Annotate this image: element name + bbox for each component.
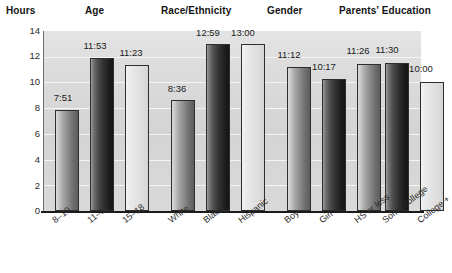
y-tick-4: 4 (4, 155, 40, 165)
y-tick-12: 12 (4, 51, 40, 61)
bar-value-white: 8:36 (155, 84, 199, 94)
group-header-parents-education: Parents' Education (339, 5, 431, 16)
bar-value-8-10: 7:51 (43, 93, 83, 103)
y-axis: 14 12 10 8 6 4 2 0 (0, 0, 40, 273)
bar-8-10[interactable] (55, 110, 79, 211)
bar-value-some-college: 11:30 (364, 45, 410, 55)
group-header-gender: Gender (267, 5, 303, 16)
y-tick-6: 6 (4, 129, 40, 139)
bar-black[interactable] (206, 44, 230, 211)
bar-15-18[interactable] (125, 65, 149, 211)
bar-11-14[interactable] (90, 58, 114, 211)
y-tick-10: 10 (4, 77, 40, 87)
plot-area (44, 31, 421, 211)
bar-hs-or-less[interactable] (357, 64, 381, 211)
bar-value-college-plus: 10:00 (398, 64, 444, 74)
y-tick-14: 14 (4, 26, 40, 36)
y-tick-8: 8 (4, 103, 40, 113)
bar-value-girl: 10:17 (301, 62, 347, 72)
bar-girl[interactable] (322, 79, 346, 211)
group-header-race-ethnicity: Race/Ethnicity (161, 5, 231, 16)
bar-value-boy: 11:12 (266, 50, 312, 60)
bar-hispanic[interactable] (241, 44, 265, 211)
bar-value-hispanic: 13:00 (218, 28, 268, 38)
y-tick-2: 2 (4, 181, 40, 191)
y-axis-line (43, 31, 44, 212)
bar-boy[interactable] (287, 67, 311, 211)
bar-white[interactable] (171, 100, 195, 211)
y-tick-0: 0 (4, 206, 40, 216)
group-header-age: Age (85, 5, 104, 16)
bar-some-college[interactable] (385, 63, 409, 211)
bar-value-15-18: 11:23 (106, 48, 156, 58)
